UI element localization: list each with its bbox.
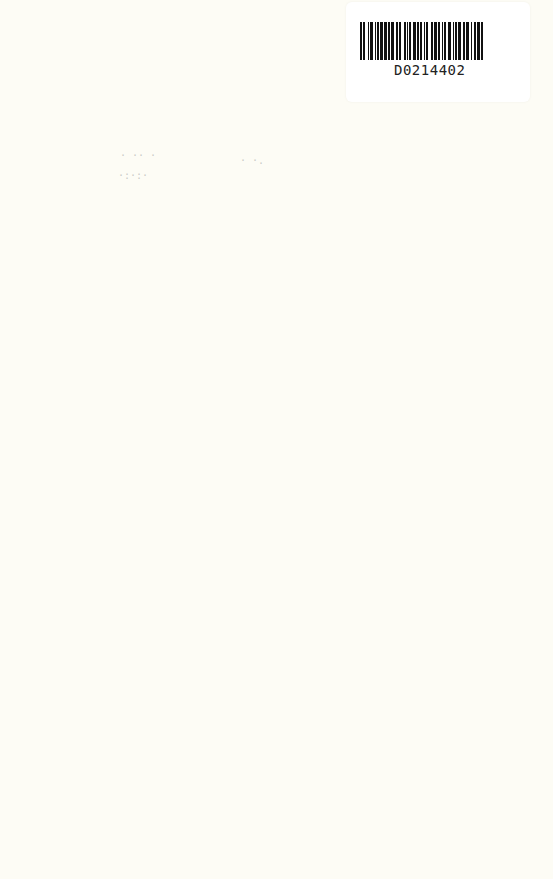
barcode-label: D0214402 [346,2,530,102]
bleed-through-mark: ·:·:· [118,170,148,181]
barcode-number: D0214402 [394,62,465,78]
bleed-through-mark: · ·. [240,155,264,166]
barcode-icon [360,22,500,60]
bleed-through-mark: · ·· · [120,150,156,161]
